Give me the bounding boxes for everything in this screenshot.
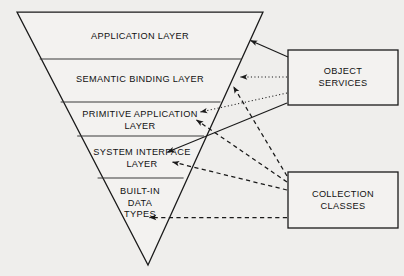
collection-classes-box-shape[interactable] — [288, 172, 398, 228]
connector-cc-to-primitive-application — [197, 120, 288, 182]
object-services-box-rect[interactable] — [288, 50, 398, 105]
inverted-pyramid-shape — [17, 12, 263, 265]
collection-classes-box-rect[interactable] — [288, 172, 398, 228]
connector-cc-to-semantic-binding — [234, 87, 288, 177]
diagram-vector-layer — [0, 0, 404, 276]
pyramid-outline — [17, 12, 263, 265]
connector-cc-to-system-interface — [173, 162, 288, 190]
object-services-box-shape[interactable] — [288, 50, 398, 105]
diagram-canvas: APPLICATION LAYER SEMANTIC BINDING LAYER… — [0, 0, 404, 276]
connector-os-to-application — [251, 41, 289, 58]
